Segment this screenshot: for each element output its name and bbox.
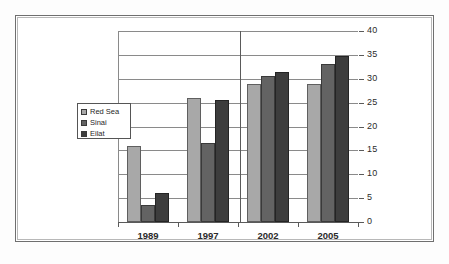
bar [307,84,321,222]
bar [127,146,141,222]
bar [187,98,201,222]
bar [155,193,169,222]
bar-chart: 0510152025303540 1989199720022005 Red Se… [0,0,449,264]
y-axis-tick-label: 40 [367,26,377,35]
y-axis-tick [359,150,364,151]
y-axis-tick-label: 10 [367,169,377,178]
x-axis-category-label: 2005 [298,230,358,241]
bar [261,76,275,222]
y-axis-tick-label: 0 [367,217,372,226]
x-axis-category-label: 1997 [178,230,238,241]
bar [275,72,289,222]
legend-item-label: Eilat [90,130,105,138]
x-axis-tick [298,222,299,227]
legend-swatch-icon [81,109,87,115]
bar [201,143,215,222]
y-axis-tick [359,55,364,56]
y-axis-tick [359,103,364,104]
y-axis-line [240,31,241,222]
legend-item-label: Red Sea [90,108,119,116]
gridline [118,55,358,56]
y-axis-tick-label: 20 [367,122,377,131]
gridline [118,31,358,32]
y-axis-tick [359,198,364,199]
x-axis-category-label: 2002 [238,230,298,241]
y-axis-tick-label: 5 [367,193,372,202]
legend-item: Eilat [81,129,127,139]
legend-item: Sinai [81,118,127,128]
legend-swatch-icon [81,131,87,137]
legend-item-label: Sinai [90,119,107,127]
y-axis-tick [359,79,364,80]
x-axis-tick [238,222,239,227]
y-axis-tick-label: 15 [367,145,377,154]
y-axis-tick [359,174,364,175]
bar [335,56,349,222]
legend-swatch-icon [81,120,87,126]
y-axis-tick-label: 35 [367,50,377,59]
bar [215,100,229,222]
bar [141,205,155,222]
bar [321,64,335,222]
x-axis-category-label: 1989 [118,230,178,241]
bar [247,84,261,222]
chart-legend: Red SeaSinaiEilat [77,103,131,139]
plot-area [118,31,358,222]
y-axis-tick-label: 25 [367,98,377,107]
legend-item: Red Sea [81,107,127,117]
x-axis-tick [178,222,179,227]
y-axis-tick-label: 30 [367,74,377,83]
y-axis-tick [359,31,364,32]
y-axis-tick [359,222,364,223]
y-axis-tick [359,127,364,128]
x-axis-tick [118,222,119,227]
x-axis-tick [358,222,359,227]
